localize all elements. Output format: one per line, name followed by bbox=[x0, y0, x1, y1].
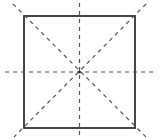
center-point bbox=[78, 71, 81, 74]
symmetry-diagram bbox=[0, 0, 162, 139]
